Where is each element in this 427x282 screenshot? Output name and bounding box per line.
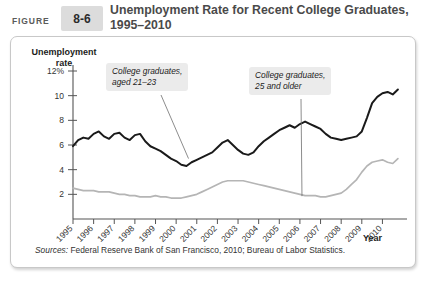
- chart-panel: Unemployment rate Year 12%108642 1995199…: [10, 36, 416, 268]
- svg-text:1999: 1999: [136, 223, 157, 244]
- annotation-young-line1: College graduates,: [112, 66, 182, 77]
- figure-header: FIGURE 8-6 Unemployment Rate for Recent …: [0, 0, 427, 38]
- svg-text:2001: 2001: [178, 223, 199, 244]
- svg-text:2006: 2006: [281, 223, 302, 244]
- data-series-group: [73, 90, 398, 199]
- source-text: Federal Reserve Bank of San Francisco, 2…: [68, 245, 345, 255]
- leader-line-young-graduates: [161, 95, 189, 159]
- annotation-older-graduates: College graduates, 25 and older: [249, 67, 331, 95]
- leader-line-older-graduates: [301, 99, 302, 196]
- svg-text:2003: 2003: [219, 223, 240, 244]
- svg-text:2010: 2010: [363, 223, 384, 244]
- figure-label: FIGURE: [12, 16, 50, 26]
- source-note: Sources: Federal Reserve Bank of San Fra…: [35, 245, 345, 255]
- svg-text:2008: 2008: [322, 223, 343, 244]
- svg-text:2002: 2002: [198, 223, 219, 244]
- svg-text:8: 8: [59, 115, 64, 125]
- source-label: Sources:: [35, 245, 68, 255]
- series-line-older-graduates: [73, 159, 398, 198]
- svg-text:2009: 2009: [343, 223, 364, 244]
- svg-text:2: 2: [59, 189, 64, 199]
- svg-text:2007: 2007: [302, 223, 323, 244]
- x-tick-mark-group: [73, 219, 382, 224]
- svg-text:1996: 1996: [75, 223, 96, 244]
- svg-text:1997: 1997: [95, 223, 116, 244]
- figure-number: 8-6: [61, 12, 103, 26]
- series-line-young-graduates: [73, 90, 398, 166]
- svg-text:6: 6: [59, 140, 64, 150]
- svg-text:1998: 1998: [116, 223, 137, 244]
- svg-text:1995: 1995: [54, 223, 75, 244]
- svg-text:4: 4: [59, 165, 64, 175]
- annotation-young-graduates: College graduates, aged 21–23: [106, 63, 188, 91]
- line-chart-plot: 12%108642 199519961997199819992000200120…: [11, 37, 417, 269]
- svg-text:10: 10: [55, 91, 65, 101]
- svg-text:2005: 2005: [260, 223, 281, 244]
- annotation-young-line2: aged 21–23: [112, 77, 182, 88]
- svg-text:12%: 12%: [47, 66, 64, 76]
- x-tick-label-group: 1995199619971998199920002001200220032004…: [54, 223, 384, 244]
- page-title: Unemployment Rate for Recent College Gra…: [110, 3, 410, 32]
- svg-text:2004: 2004: [240, 223, 261, 244]
- y-tick-label-group: 12%108642: [47, 66, 64, 199]
- svg-text:2000: 2000: [157, 223, 178, 244]
- annotation-older-line2: 25 and older: [255, 81, 325, 92]
- annotation-older-line1: College graduates,: [255, 70, 325, 81]
